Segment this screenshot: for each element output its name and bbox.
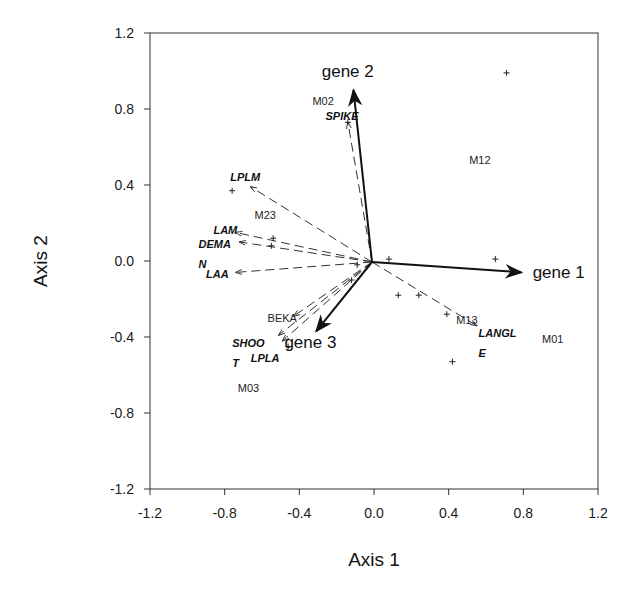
x-tick-label: -0.4	[287, 505, 311, 521]
sample-point-marker	[229, 188, 235, 194]
trait-label-langle: LANGL	[479, 327, 517, 339]
plot-frame	[150, 33, 598, 489]
sample-point-marker	[504, 70, 510, 76]
trait-vector-lam	[236, 233, 372, 263]
sample-point-marker	[354, 262, 360, 268]
sample-point-marker	[444, 311, 450, 317]
trait-label-lplm: LPLM	[230, 171, 261, 183]
trait-vectors: SPIKELPLMLAMDEMANLAALANGLESHOOTLPLA	[199, 110, 517, 368]
trait-label-langle: E	[479, 347, 487, 359]
trait-label-lam: LAM	[213, 224, 238, 236]
biplot-chart: -1.2-0.8-0.40.00.40.81.2 1.20.80.40.0-0.…	[0, 0, 635, 596]
y-tick-label: 0.4	[115, 177, 135, 193]
site-label-m03: M03	[238, 382, 259, 394]
site-label-m02: M02	[312, 95, 333, 107]
trait-label-laa: LAA	[206, 268, 229, 280]
trait-vector-laa	[236, 262, 372, 272]
trait-label-lpla: LPLA	[251, 352, 280, 364]
y-tick-label: 0.8	[115, 101, 135, 117]
gene-label-2: gene 2	[322, 62, 374, 81]
y-tick-label: 0.0	[115, 253, 135, 269]
trait-vector-shoot	[279, 262, 372, 335]
y-tick-label: -0.4	[110, 329, 134, 345]
trait-label-deman: DEMA	[199, 238, 231, 250]
sample-point-marker	[386, 256, 392, 262]
x-tick-label: 0.8	[514, 505, 534, 521]
y-tick-label: -0.8	[110, 405, 134, 421]
y-axis-title: Axis 2	[30, 235, 51, 287]
gene-vector-3	[316, 262, 372, 331]
sample-point-marker	[492, 256, 498, 262]
x-tick-label: 0.4	[439, 505, 459, 521]
trait-vector-lplm	[251, 187, 372, 262]
sample-point-marker	[416, 292, 422, 298]
gene-vector-2	[353, 90, 372, 262]
gene-label-3: gene 3	[284, 333, 336, 352]
x-tick-label: -0.8	[213, 505, 237, 521]
trait-label-spike: SPIKE	[325, 110, 359, 122]
trait-label-shoot: T	[232, 357, 240, 369]
y-axis-ticks: 1.20.80.40.0-0.4-0.8-1.2	[110, 25, 150, 497]
x-tick-label: 0.0	[364, 505, 384, 521]
site-label-beka: BEKA	[268, 312, 298, 324]
gene-label-1: gene 1	[533, 263, 585, 282]
sample-point-marker	[449, 359, 455, 365]
trait-vector-deman	[240, 242, 372, 262]
y-tick-label: -1.2	[110, 481, 134, 497]
site-label-m13: M13	[456, 314, 477, 326]
sample-point-marker	[268, 243, 274, 249]
trait-vector-beka	[294, 262, 372, 316]
y-tick-label: 1.2	[115, 25, 135, 41]
trait-label-shoot: SHOO	[232, 337, 265, 349]
site-label-m23: M23	[255, 209, 276, 221]
trait-vector-lpla	[283, 262, 372, 341]
x-tick-label: 1.2	[588, 505, 608, 521]
x-tick-label: -1.2	[138, 505, 162, 521]
x-axis-ticks: -1.2-0.8-0.40.00.40.81.2	[138, 489, 608, 521]
site-label-m12: M12	[469, 154, 490, 166]
sample-point-marker	[395, 292, 401, 298]
site-label-m01: M01	[542, 333, 563, 345]
x-axis-title: Axis 1	[348, 549, 400, 570]
gene-vector-1	[372, 262, 521, 272]
